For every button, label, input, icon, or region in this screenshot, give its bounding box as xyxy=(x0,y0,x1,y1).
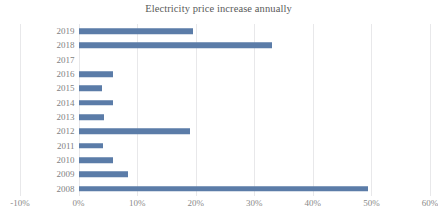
category-label: 2013 xyxy=(57,112,75,122)
category-label: 2018 xyxy=(57,40,75,50)
bar[interactable] xyxy=(79,100,113,106)
bar-row: 2018 xyxy=(20,38,430,52)
bar-row: 2013 xyxy=(20,110,430,124)
bar-row: 2017 xyxy=(20,53,430,67)
bar[interactable] xyxy=(79,172,129,178)
bar[interactable] xyxy=(79,157,113,163)
bar[interactable] xyxy=(79,186,369,192)
category-label: 2009 xyxy=(57,169,75,179)
bar[interactable] xyxy=(79,28,193,34)
category-label: 2015 xyxy=(57,83,75,93)
x-tick-label: -10% xyxy=(10,198,30,208)
bar[interactable] xyxy=(79,71,114,77)
category-label: 2008 xyxy=(57,184,75,194)
x-tick-label: 0% xyxy=(73,198,85,208)
category-label: 2016 xyxy=(57,69,75,79)
category-label: 2010 xyxy=(57,155,75,165)
bar-row: 2014 xyxy=(20,96,430,110)
category-label: 2011 xyxy=(57,141,75,151)
x-tick-label: 40% xyxy=(305,198,322,208)
x-tick-label: 20% xyxy=(187,198,204,208)
bar-row: 2009 xyxy=(20,167,430,181)
chart-title: Electricity price increase annually xyxy=(0,3,437,14)
category-label: 2017 xyxy=(57,55,75,65)
category-label: 2012 xyxy=(57,126,75,136)
gridline-60pct xyxy=(430,24,431,196)
bar-row: 2010 xyxy=(20,153,430,167)
x-tick-label: 30% xyxy=(246,198,263,208)
bar[interactable] xyxy=(79,143,104,149)
bar-row: 2015 xyxy=(20,81,430,95)
bar-row: 2008 xyxy=(20,182,430,196)
bar[interactable] xyxy=(79,114,104,120)
bar-row: 2011 xyxy=(20,139,430,153)
bar-row: 2019 xyxy=(20,24,430,38)
x-tick-label: 60% xyxy=(422,198,438,208)
bar-row: 2016 xyxy=(20,67,430,81)
bar[interactable] xyxy=(79,129,190,135)
bar-row: 2012 xyxy=(20,124,430,138)
x-tick-label: 50% xyxy=(363,198,380,208)
category-label: 2019 xyxy=(57,26,75,36)
x-axis: -10%0%10%20%30%40%50%60% xyxy=(20,198,430,214)
bar[interactable] xyxy=(79,86,102,92)
bar-rows: 2019201820172016201520142013201220112010… xyxy=(20,24,430,196)
x-tick-label: 10% xyxy=(129,198,146,208)
plot-area: 2019201820172016201520142013201220112010… xyxy=(20,24,430,196)
category-label: 2014 xyxy=(57,98,75,108)
bar[interactable] xyxy=(79,43,272,49)
